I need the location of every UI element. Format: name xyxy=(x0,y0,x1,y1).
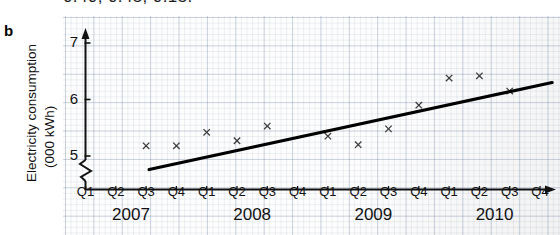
data-point-marker xyxy=(264,123,270,129)
data-point-marker xyxy=(143,143,149,149)
data-point-marker xyxy=(476,73,482,79)
data-point-marker xyxy=(355,142,361,148)
data-point-marker xyxy=(416,102,422,108)
y-axis-arrow-icon xyxy=(82,28,90,39)
data-point-markers xyxy=(143,73,513,149)
data-point-marker xyxy=(204,129,210,135)
y-axis-break-icon xyxy=(80,160,91,181)
trend-line-segment xyxy=(149,83,552,170)
figure-panel-b: 0.40, 0.45, 0.15. b Electricity consumpt… xyxy=(0,0,560,235)
trend-line xyxy=(149,83,552,170)
data-point-marker xyxy=(173,143,179,149)
data-point-marker xyxy=(325,133,331,139)
plot-svg xyxy=(0,0,560,235)
data-point-marker xyxy=(385,126,391,132)
data-point-marker xyxy=(446,75,452,81)
x-axis-arrow-icon xyxy=(545,186,556,194)
data-point-marker xyxy=(234,138,240,144)
